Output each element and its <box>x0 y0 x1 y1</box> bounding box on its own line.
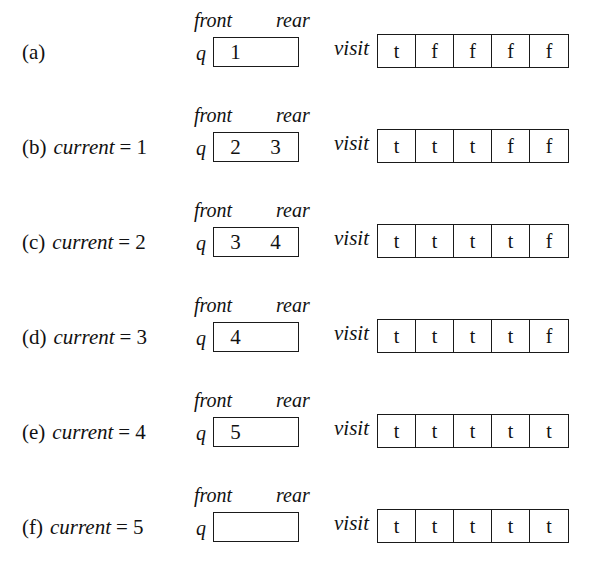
visit-cell: t <box>454 320 492 352</box>
equals-sign: = <box>118 420 130 444</box>
queue-pointer-labels: frontrear <box>190 483 345 507</box>
equals-sign: = <box>118 230 130 254</box>
queue-pointer-labels: frontrear <box>190 388 345 412</box>
visit-cell: t <box>378 35 416 67</box>
queue-pointer-labels: frontrear <box>190 293 345 317</box>
visit-cell: t <box>492 320 530 352</box>
visit-cell: t <box>454 225 492 257</box>
row-tag: (c) <box>22 230 45 254</box>
visit-cell: f <box>492 130 530 162</box>
row-tag: (d) <box>22 325 47 349</box>
current-value: 5 <box>133 515 144 539</box>
row-caption: (f)current=5 <box>22 511 143 543</box>
visit-array-label: visit <box>334 128 369 158</box>
current-value: 2 <box>135 230 146 254</box>
queue-block: frontrearq5 <box>190 388 350 458</box>
trace-row: (b)current=1frontrearq23visittttff <box>0 95 590 190</box>
current-value: 4 <box>135 420 146 444</box>
queue-name-label: q <box>196 38 206 68</box>
trace-row: (e)current=4frontrearq5visitttttt <box>0 380 590 475</box>
queue-name-label: q <box>196 323 206 353</box>
front-pointer-label: front <box>194 388 232 412</box>
queue-block: frontrearq23 <box>190 103 350 173</box>
trace-row: (f)current=5frontrearqvisitttttt <box>0 475 590 570</box>
visit-cell: t <box>416 415 454 447</box>
queue-box <box>213 512 299 542</box>
queue-slot <box>254 323 297 351</box>
row-tag: (f) <box>22 515 43 539</box>
visit-array: ttttt <box>377 509 569 543</box>
rear-pointer-label: rear <box>276 388 310 412</box>
visit-array: tffff <box>377 34 569 68</box>
trace-row: (d)current=3frontrearq4visitttttf <box>0 285 590 380</box>
visit-cell: t <box>378 225 416 257</box>
visit-cell: t <box>530 510 568 542</box>
front-pointer-label: front <box>194 8 232 32</box>
current-value: 1 <box>136 135 147 159</box>
row-caption: (c)current=2 <box>22 226 146 258</box>
visit-cell: f <box>530 225 568 257</box>
rear-pointer-label: rear <box>276 103 310 127</box>
visit-array: ttttf <box>377 224 569 258</box>
visit-cell: t <box>378 510 416 542</box>
queue-slot <box>214 513 257 541</box>
queue-block: frontrearq34 <box>190 198 350 268</box>
front-pointer-label: front <box>194 293 232 317</box>
front-pointer-label: front <box>194 103 232 127</box>
visit-cell: t <box>492 225 530 257</box>
queue-slot <box>254 418 297 446</box>
visit-array-label: visit <box>334 33 369 63</box>
visit-array: ttttt <box>377 414 569 448</box>
visit-array: ttttf <box>377 319 569 353</box>
visit-cell: f <box>492 35 530 67</box>
queue-block: frontrearq1 <box>190 8 350 78</box>
row-caption: (e)current=4 <box>22 416 146 448</box>
queue-slot <box>254 513 297 541</box>
visit-cell: t <box>492 415 530 447</box>
visit-array-label: visit <box>334 318 369 348</box>
row-tag: (e) <box>22 420 45 444</box>
queue-slot: 2 <box>214 133 257 161</box>
rear-pointer-label: rear <box>276 8 310 32</box>
row-caption: (d)current=3 <box>22 321 147 353</box>
visit-cell: f <box>416 35 454 67</box>
queue-box: 5 <box>213 417 299 447</box>
front-pointer-label: front <box>194 483 232 507</box>
row-tag: (b) <box>22 135 47 159</box>
visit-cell: t <box>378 320 416 352</box>
queue-box: 23 <box>213 132 299 162</box>
rear-pointer-label: rear <box>276 198 310 222</box>
current-variable-label: current <box>54 135 115 159</box>
equals-sign: = <box>120 325 132 349</box>
queue-pointer-labels: frontrear <box>190 103 345 127</box>
visit-cell: f <box>530 320 568 352</box>
visit-cell: f <box>454 35 492 67</box>
visit-cell: t <box>416 510 454 542</box>
current-value: 3 <box>136 325 147 349</box>
visit-cell: t <box>378 415 416 447</box>
visit-cell: f <box>530 130 568 162</box>
queue-slot: 3 <box>214 228 257 256</box>
queue-slot: 5 <box>214 418 257 446</box>
queue-name-label: q <box>196 513 206 543</box>
visit-cell: t <box>530 415 568 447</box>
visit-cell: t <box>492 510 530 542</box>
visit-cell: t <box>454 130 492 162</box>
visit-cell: t <box>454 415 492 447</box>
queue-name-label: q <box>196 418 206 448</box>
visit-cell: t <box>416 225 454 257</box>
front-pointer-label: front <box>194 198 232 222</box>
trace-row: (c)current=2frontrearq34visitttttf <box>0 190 590 285</box>
row-caption: (a) <box>22 36 45 68</box>
queue-slot: 4 <box>254 228 297 256</box>
queue-box: 4 <box>213 322 299 352</box>
visit-cell: f <box>530 35 568 67</box>
queue-box: 1 <box>213 37 299 67</box>
row-tag: (a) <box>22 40 45 64</box>
visit-cell: t <box>378 130 416 162</box>
queue-visit-trace-figure: (a)frontrearq1visittffff(b)current=1fron… <box>0 0 590 572</box>
current-variable-label: current <box>52 230 113 254</box>
queue-slot <box>254 38 297 66</box>
visit-array-label: visit <box>334 413 369 443</box>
equals-sign: = <box>120 135 132 159</box>
